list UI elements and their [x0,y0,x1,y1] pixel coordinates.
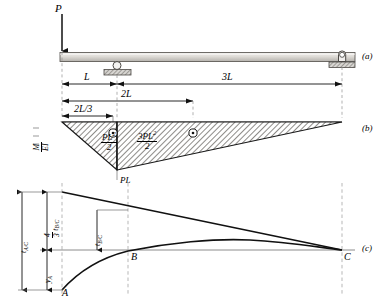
roller-support-B [104,62,131,76]
y-A-base: y [43,279,52,283]
moment-area-left-label: PL2 2 [101,131,117,152]
point-label-B: B [131,252,137,262]
moment-axis-den: EI [42,142,50,152]
point-label-A: A [62,288,68,298]
figure-svg [0,0,383,302]
dimension-label-2L: 2L [119,89,134,99]
t-AC-base: t [19,251,28,253]
panel-tag-b: (b) [362,124,373,133]
area-left-den: 2 [101,143,117,152]
dimension-label-3L: 3L [222,72,233,82]
label-t-AC: tA/C [20,242,28,253]
t-AC-sub: A/C [23,242,29,251]
moment-peak-label-PL: PL [120,176,131,185]
beam-moment-area-figure: P L 3L 2L 2L/3 (a) M EI PL2 2 3PL2 2 PL … [0,0,383,302]
panel-b-moment-diagram [33,122,342,180]
panel-a-beam [60,14,355,133]
dimension-label-L: L [84,72,90,82]
y-A-sub: A [47,276,53,279]
dim-2L3-den: 3 [87,103,92,114]
coef-den: 3 [53,232,61,238]
label-y-A: yA [44,276,52,283]
load-label-P: P [55,3,62,14]
label-four-thirds-t-BC: 4 3 tB/C [44,220,60,238]
centroid-marker-right [189,129,197,137]
t-AC-extension-lines [18,192,63,290]
t-BC-sub: B/C [97,235,103,244]
area-right-base: PL [143,131,154,141]
area-right-exp: 2 [153,129,156,136]
dimension-label-2L-over-3: 2L/3 [72,104,94,114]
area-left-base: PL [102,132,113,142]
t-BC-scaled-sub: B/C [54,220,60,229]
t-BC-base: t [93,244,102,246]
label-t-BC: tB/C [94,235,102,246]
panel-tag-a: (a) [362,52,373,61]
dim-2L3-num: 2L [74,103,85,114]
panel-c-deflection [18,183,355,295]
area-left-exp: 2 [113,130,116,137]
station-lines-c [62,183,342,295]
moment-area-right-label: 3PL2 2 [137,130,157,151]
point-label-C: C [344,252,351,262]
area-right-den: 2 [137,142,157,151]
elastic-curve [62,240,342,290]
panel-tag-c: (c) [362,244,372,253]
moment-axis-label: M EI [33,142,50,152]
